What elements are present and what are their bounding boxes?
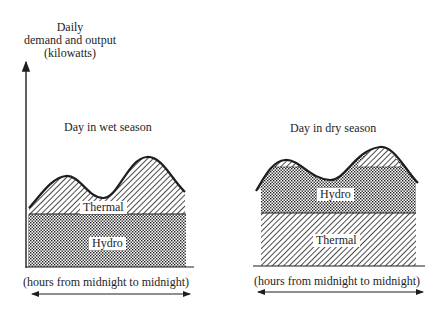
- dry-season-title: Day in dry season: [290, 122, 376, 135]
- y-axis-label: Daily demand and output (kilowatts): [20, 21, 120, 60]
- dry-thermal-label: Thermal: [313, 234, 360, 247]
- dry-season-chart: [253, 147, 425, 292]
- wet-season-chart: [26, 62, 194, 294]
- wet-hydro-label: Hydro: [89, 237, 126, 250]
- wet-thermal-label: Thermal: [80, 201, 127, 214]
- dry-hydro-label: Hydro: [317, 188, 354, 201]
- wet-season-title: Day in wet season: [64, 121, 152, 134]
- wet-x-axis-label: (hours from midnight to midnight): [23, 276, 189, 289]
- dry-x-axis-label: (hours from midnight to midnight): [254, 275, 420, 288]
- y-axis-label-line-3: (kilowatts): [20, 47, 120, 60]
- dry-thermal-peak-area: [272, 147, 402, 167]
